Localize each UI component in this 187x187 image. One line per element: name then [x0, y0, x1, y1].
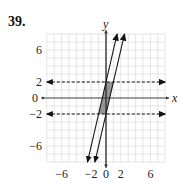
y-axis-label: y — [102, 17, 109, 31]
x-axis-label: x — [171, 91, 178, 105]
x-tick-label: −6 — [55, 167, 68, 181]
y-tick-label: −2 — [29, 107, 42, 121]
y-tick-label: −6 — [29, 139, 42, 153]
graph: −6−2026620−2−6xy — [0, 0, 187, 187]
x-tick-label: 2 — [118, 167, 124, 181]
y-tick-label: 6 — [36, 43, 42, 57]
y-tick-label: 0 — [32, 91, 38, 105]
x-tick-label: 6 — [147, 167, 153, 181]
y-tick-label: 2 — [36, 75, 42, 89]
x-axis-start-dot — [42, 97, 45, 100]
x-tick-label: −2 — [85, 167, 98, 181]
x-tick-label: 0 — [103, 167, 109, 181]
